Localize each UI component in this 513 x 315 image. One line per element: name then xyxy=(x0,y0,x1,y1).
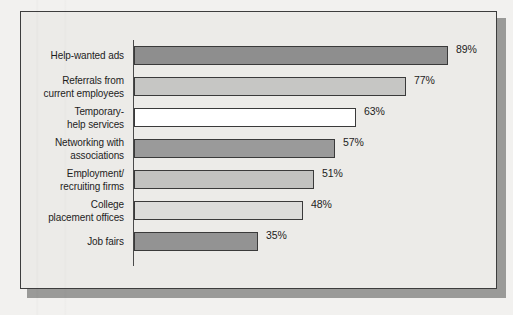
bar xyxy=(134,232,258,251)
bar-row: Collegeplacement offices48% xyxy=(21,195,496,226)
chart-panel: Help-wanted ads89%Referrals fromcurrent … xyxy=(20,11,497,289)
bar-row: Employment/recruiting firms51% xyxy=(21,164,496,195)
bar-category-label: Job fairs xyxy=(0,226,124,257)
bar-value-label: 57% xyxy=(343,136,364,148)
bar-value-label: 77% xyxy=(414,74,435,86)
bar-category-label: Collegeplacement offices xyxy=(0,195,124,226)
plot-area: Help-wanted ads89%Referrals fromcurrent … xyxy=(21,12,496,288)
bar-row: Referrals fromcurrent employees77% xyxy=(21,71,496,102)
bar-category-label-line2: recruiting firms xyxy=(60,180,124,193)
bar-category-label: Networking withassociations xyxy=(0,133,124,164)
bar-row: Temporary-help services63% xyxy=(21,102,496,133)
bar-category-label: Help-wanted ads xyxy=(0,40,124,71)
bar-value-label: 48% xyxy=(311,198,332,210)
bar-category-label-line2: help services xyxy=(67,118,124,131)
bar xyxy=(134,77,406,96)
bar-category-label-line2: placement offices xyxy=(48,211,124,224)
bar-category-label-line1: Employment/ xyxy=(67,167,124,180)
bar-value-label: 63% xyxy=(364,105,385,117)
bar-category-label-line2: current employees xyxy=(44,87,124,100)
bar xyxy=(134,170,314,189)
bar-value-label: 35% xyxy=(266,229,287,241)
bar-category-label: Temporary-help services xyxy=(0,102,124,133)
bar-row: Job fairs35% xyxy=(21,226,496,257)
bar-category-label-line1: Help-wanted ads xyxy=(51,49,124,62)
bar-value-label: 51% xyxy=(322,167,343,179)
bar-category-label-line1: College xyxy=(91,198,124,211)
bar-category-label: Referrals fromcurrent employees xyxy=(0,71,124,102)
bar xyxy=(134,46,448,65)
bar-category-label-line1: Referrals from xyxy=(62,74,124,87)
bar-row: Help-wanted ads89% xyxy=(21,40,496,71)
bar-category-label-line2: associations xyxy=(70,149,124,162)
bar-category-label-line1: Networking with xyxy=(55,136,124,149)
bar-category-label-line1: Job fairs xyxy=(87,235,124,248)
bar xyxy=(134,201,303,220)
bar xyxy=(134,108,356,127)
bar-category-label: Employment/recruiting firms xyxy=(0,164,124,195)
bar-value-label: 89% xyxy=(456,43,477,55)
bar-category-label-line1: Temporary- xyxy=(74,105,124,118)
bar-row: Networking withassociations57% xyxy=(21,133,496,164)
bar xyxy=(134,139,335,158)
